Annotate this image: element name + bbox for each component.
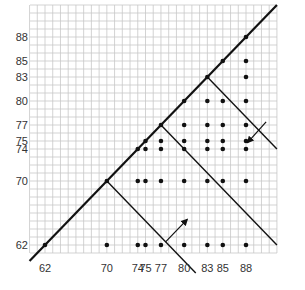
y-tick-label: 62: [16, 239, 28, 251]
data-point: [143, 139, 148, 144]
constraint-line: [107, 181, 196, 273]
data-point: [182, 99, 187, 104]
data-point: [244, 243, 249, 248]
data-point: [182, 139, 187, 144]
y-tick-label: 85: [16, 55, 28, 67]
data-point: [159, 139, 164, 144]
y-tick-label: 83: [16, 71, 28, 83]
data-point: [159, 123, 164, 128]
data-point: [143, 179, 148, 184]
x-axis-ticks: 627074757780838588: [39, 262, 252, 274]
data-point: [244, 123, 249, 128]
x-tick-label: 70: [101, 262, 113, 274]
y-axis-ticks: 627074757780838588: [16, 31, 28, 251]
y-tick-label: 77: [16, 119, 28, 131]
x-tick-label: 62: [39, 262, 51, 274]
y-tick-label: 70: [16, 175, 28, 187]
data-point: [205, 147, 210, 152]
data-point: [205, 99, 210, 104]
data-point: [205, 243, 210, 248]
data-point: [105, 179, 110, 184]
y-tick-label: 88: [16, 31, 28, 43]
y-tick-label: 75: [16, 135, 28, 147]
data-point: [244, 179, 249, 184]
data-point: [159, 243, 164, 248]
data-point: [244, 75, 249, 80]
constraint-line: [207, 77, 277, 149]
data-point: [105, 243, 110, 248]
constraint-line: [161, 125, 277, 245]
data-point: [221, 243, 226, 248]
data-point: [244, 99, 249, 104]
data-point: [205, 75, 210, 80]
data-point: [221, 139, 226, 144]
data-point: [159, 147, 164, 152]
data-point: [135, 179, 140, 184]
data-point: [244, 147, 249, 152]
data-point: [182, 123, 187, 128]
x-tick-label: 83: [201, 262, 213, 274]
data-point: [143, 243, 148, 248]
data-point: [182, 179, 187, 184]
data-point: [205, 123, 210, 128]
data-point: [221, 147, 226, 152]
data-point: [221, 59, 226, 64]
data-point: [182, 243, 187, 248]
data-point: [244, 35, 249, 40]
data-point: [221, 99, 226, 104]
data-point: [43, 243, 48, 248]
y-tick-label: 80: [16, 95, 28, 107]
data-point: [135, 147, 140, 152]
x-tick-label: 85: [217, 262, 229, 274]
data-point: [159, 179, 164, 184]
data-point: [221, 179, 226, 184]
data-point: [244, 59, 249, 64]
data-point: [244, 139, 249, 144]
data-point: [221, 123, 226, 128]
x-tick-label: 77: [155, 262, 167, 274]
data-point: [205, 179, 210, 184]
data-point: [135, 243, 140, 248]
x-tick-label: 80: [178, 262, 190, 274]
data-point: [205, 139, 210, 144]
scatter-chart: 627074757780838588 627074757780838588: [0, 0, 305, 290]
x-tick-label: 75: [139, 262, 151, 274]
data-point: [143, 147, 148, 152]
x-tick-label: 88: [240, 262, 252, 274]
data-point: [182, 147, 187, 152]
